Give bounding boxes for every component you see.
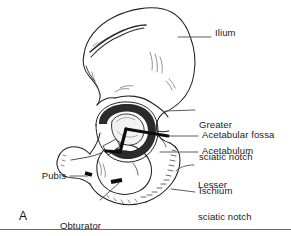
label-ischium: Ischium: [199, 186, 232, 197]
label-lesser-sciatic-notch-line2: sciatic notch: [198, 212, 252, 223]
ilium-lower-shading: [92, 72, 98, 87]
label-obturator-foramen: Obturator foramen: [60, 200, 101, 236]
pubis-hatch: [61, 155, 66, 166]
anatomy-figure-panel: Ilium Greater sciatic notch Acetabular f…: [0, 0, 291, 236]
lower-acet-shade: [133, 163, 138, 175]
ramus-shade: [98, 160, 101, 175]
lesser-notch-hatch: [141, 150, 176, 197]
panel-letter: A: [19, 209, 27, 223]
superior-pubic-ramus: [90, 133, 100, 154]
pubis-pointer: [85, 173, 92, 175]
ilium-anterior-border: [83, 54, 100, 105]
label-lesser-sciatic-notch: Lesser sciatic notch: [198, 159, 252, 236]
leader-greater-sciatic-notch: [166, 110, 195, 111]
label-ilium: Ilium: [215, 28, 236, 39]
label-acetabular-fossa: Acetabular fossa: [202, 130, 274, 141]
leader-ischium: [171, 189, 195, 192]
label-pubis: Pubis: [20, 171, 66, 182]
label-acetabulum: Acetabulum: [202, 146, 253, 157]
ischial-spine-mark: [157, 131, 169, 132]
obturator-foramen-pointer: [111, 180, 122, 182]
figure-baseline-rule: [0, 229, 291, 230]
acetabulum-pointer-stem: [106, 151, 120, 152]
ilium-gluteal-lines: [150, 52, 152, 70]
pubic-ridge-line: [71, 153, 101, 160]
ilium-outline: [84, 8, 195, 112]
